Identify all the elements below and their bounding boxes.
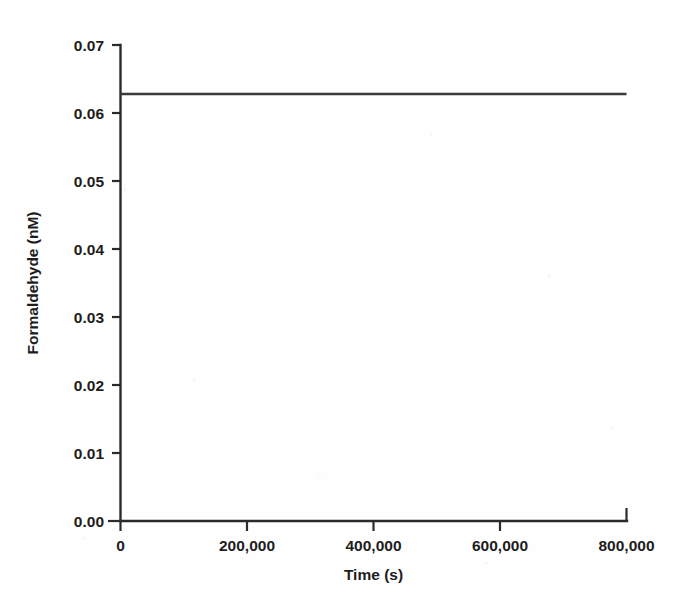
y-tick-label-0.00: 0.00	[74, 513, 104, 530]
y-tick-label-0.05: 0.05	[74, 173, 105, 190]
x-tick-label-200000: 200,000	[219, 537, 275, 554]
x-axis: 0 200,000 400,000 600,000 800,000 Time (…	[116, 508, 654, 583]
y-tick-label-0.03: 0.03	[74, 309, 105, 326]
formaldehyde-vs-time-chart: 0.07 0.06 0.05 0.04 0.03 0.02 0.01 0.00 …	[0, 0, 695, 612]
x-tick-label-600000: 600,000	[472, 537, 528, 554]
y-axis: 0.07 0.06 0.05 0.04 0.03 0.02 0.01 0.00 …	[24, 37, 121, 530]
y-tick-label-0.02: 0.02	[74, 377, 104, 394]
figure-page: 0.07 0.06 0.05 0.04 0.03 0.02 0.01 0.00 …	[0, 0, 695, 612]
y-axis-title: Formaldehyde (nM)	[24, 212, 41, 355]
x-tick-label-400000: 400,000	[345, 537, 401, 554]
x-axis-title: Time (s)	[344, 566, 403, 583]
y-tick-label-0.01: 0.01	[74, 445, 105, 462]
x-tick-label-800000: 800,000	[598, 537, 654, 554]
y-tick-label-0.07: 0.07	[74, 37, 104, 54]
x-tick-label-0: 0	[116, 537, 125, 554]
y-tick-label-0.04: 0.04	[74, 241, 105, 258]
y-tick-label-0.06: 0.06	[74, 105, 105, 122]
